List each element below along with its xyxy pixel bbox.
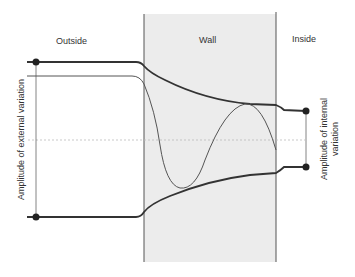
- wall-region: [144, 14, 276, 262]
- internal-amplitude-label: Amplitude of internal variation: [319, 89, 341, 189]
- external-max-marker: [33, 59, 40, 66]
- internal-min-marker: [303, 164, 310, 171]
- external-min-marker: [33, 214, 40, 221]
- internal-amplitude-line2: variation: [330, 89, 341, 189]
- external-amplitude-label: Amplitude of external variation: [16, 70, 27, 210]
- internal-max-marker: [303, 108, 310, 115]
- inside-label: Inside: [292, 34, 316, 44]
- outside-label: Outside: [56, 36, 87, 46]
- internal-amplitude-line1: Amplitude of internal: [319, 89, 330, 189]
- wall-label: Wall: [199, 35, 216, 45]
